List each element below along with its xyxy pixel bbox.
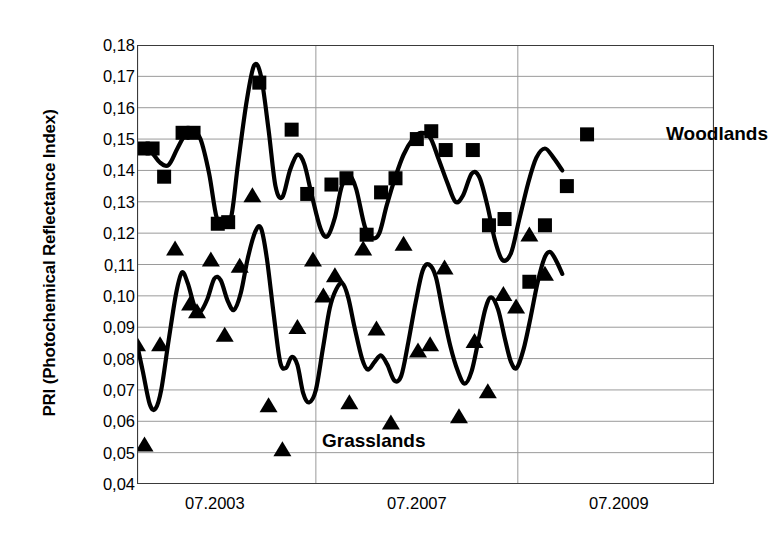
data-point-square (560, 179, 574, 193)
data-point-triangle (450, 408, 468, 423)
data-point-triangle (304, 252, 322, 267)
data-point-triangle (137, 336, 146, 351)
data-point-square (157, 170, 171, 184)
data-point-square (466, 143, 480, 157)
data-point-square (300, 187, 314, 201)
data-point-square (360, 228, 374, 242)
data-point-triangle (288, 319, 306, 334)
data-point-triangle (340, 394, 358, 409)
data-point-triangle (202, 252, 220, 267)
woodlands-curve-path (137, 64, 562, 261)
data-point-triangle (395, 236, 413, 251)
data-point-triangle (479, 383, 497, 398)
woodlands-trend-line (137, 64, 562, 261)
x-axis-tick-label: 07.2007 (357, 494, 477, 513)
data-point-triangle (494, 286, 512, 301)
x-axis-tick-label: 07.2009 (559, 494, 679, 513)
data-point-triangle (382, 415, 400, 430)
data-point-square (538, 218, 552, 232)
data-point-triangle (273, 441, 291, 456)
data-point-triangle (326, 267, 344, 282)
data-point-square (374, 185, 388, 199)
data-point-square (389, 171, 403, 185)
data-point-triangle (243, 187, 261, 202)
data-point-triangle (166, 241, 184, 256)
series-label-woodlands: Woodlands (666, 123, 768, 145)
data-point-square (498, 212, 512, 226)
data-point-square (187, 126, 201, 140)
data-point-square (522, 275, 536, 289)
data-point-triangle (354, 241, 372, 256)
data-point-triangle (367, 321, 385, 336)
plot-area: Woodlands Grasslands (137, 45, 714, 484)
data-point-square (424, 124, 438, 138)
data-point-square (221, 215, 235, 229)
data-point-square (324, 178, 338, 192)
data-point-square (252, 76, 266, 90)
data-point-square (339, 171, 353, 185)
series-label-grasslands: Grasslands (322, 430, 426, 452)
data-point-triangle (216, 327, 234, 342)
data-point-square (410, 132, 424, 146)
data-point-triangle (520, 226, 538, 241)
data-point-square (146, 141, 160, 155)
data-point-triangle (421, 336, 439, 351)
x-axis-tick-label: 07.2003 (155, 494, 275, 513)
data-point-triangle (137, 437, 154, 452)
chart-canvas (137, 45, 714, 484)
data-point-square (285, 123, 299, 137)
data-point-triangle (314, 288, 332, 303)
data-point-triangle (260, 397, 278, 412)
data-point-triangle (436, 259, 454, 274)
data-point-square (482, 218, 496, 232)
data-point-square (580, 127, 594, 141)
data-point-square (439, 143, 453, 157)
